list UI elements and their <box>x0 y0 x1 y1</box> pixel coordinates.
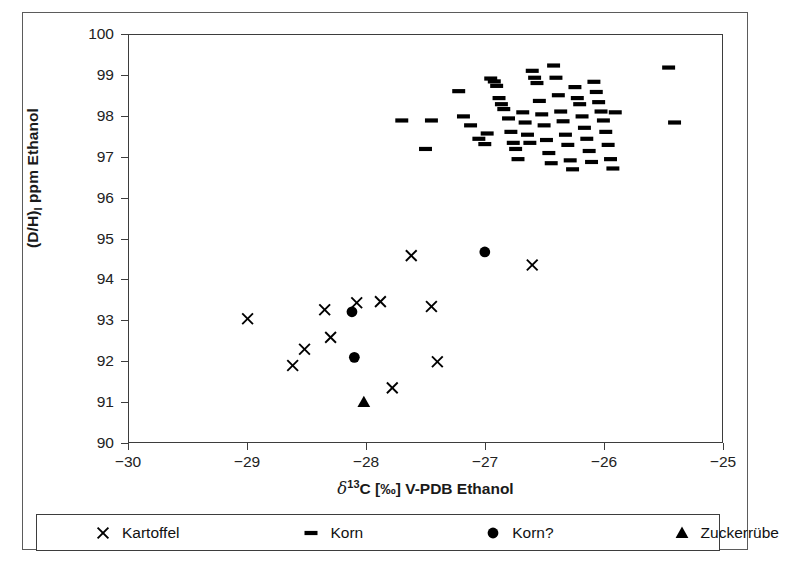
data-point <box>523 141 536 145</box>
legend-label: Zuckerrübe <box>701 524 779 542</box>
data-point <box>516 110 529 114</box>
data-point <box>425 118 438 122</box>
data-point <box>590 90 603 94</box>
triangle-marker-icon <box>672 523 694 543</box>
data-point <box>602 143 615 147</box>
data-point <box>578 126 591 130</box>
data-point <box>554 109 567 113</box>
legend-item-korn[interactable]: Korn <box>301 523 363 543</box>
data-point <box>509 147 522 151</box>
series-zuckerr-be <box>357 396 370 407</box>
data-point <box>542 151 555 155</box>
data-point <box>242 313 253 324</box>
data-point <box>599 130 612 134</box>
x-axis-title-rest: C [‰] V-PDB Ethanol <box>360 480 514 497</box>
data-point <box>585 160 598 164</box>
data-point <box>533 99 546 103</box>
data-point <box>527 260 538 271</box>
x-tick-mark <box>485 443 486 450</box>
figure-root: (D/H)I ppm Ethanol 100999897969594939291… <box>0 0 792 585</box>
data-point <box>540 138 553 142</box>
data-point <box>457 114 470 118</box>
data-point <box>606 166 619 170</box>
data-point <box>576 114 589 118</box>
data-point <box>497 107 510 111</box>
data-point <box>592 100 605 104</box>
scatter-plot-canvas <box>129 35 722 442</box>
data-point <box>587 80 600 84</box>
data-point <box>662 65 675 69</box>
data-point <box>531 81 544 85</box>
data-point <box>478 142 491 146</box>
x-tick-mark <box>247 443 248 450</box>
data-point <box>406 250 417 261</box>
x-tick-label: −29 <box>212 453 282 471</box>
data-point <box>519 120 532 124</box>
data-point <box>502 116 515 120</box>
data-point <box>545 161 558 165</box>
x-axis-title: δ13C [‰] V-PDB Ethanol <box>128 478 723 498</box>
x-tick-label: −26 <box>569 453 639 471</box>
legend-label: Kartoffel <box>122 524 179 542</box>
data-point <box>464 123 477 127</box>
x-axis-title-superscript: 13 <box>347 478 359 490</box>
data-point <box>507 141 520 145</box>
data-point <box>597 118 610 122</box>
data-point <box>535 112 548 116</box>
data-point <box>566 167 579 171</box>
x-tick-mark <box>723 443 724 450</box>
data-point <box>561 143 574 147</box>
data-point <box>387 382 398 393</box>
x-tick-mark <box>366 443 367 450</box>
data-point <box>564 158 577 162</box>
data-point <box>549 76 562 80</box>
data-point <box>568 85 581 89</box>
x-tick-label: −27 <box>450 453 520 471</box>
x-tick-label: −28 <box>331 453 401 471</box>
data-point <box>573 102 586 106</box>
data-point <box>325 332 336 343</box>
data-point <box>488 79 501 83</box>
data-point <box>452 89 465 93</box>
legend: KartoffelKornKorn?Zuckerrübe <box>36 514 720 551</box>
data-point <box>426 301 437 312</box>
data-point <box>668 120 681 124</box>
legend-item-korn[interactable]: Korn? <box>483 523 553 543</box>
legend-label: Korn <box>330 524 363 542</box>
x-tick-label: −25 <box>688 453 758 471</box>
data-point <box>595 109 608 113</box>
legend-item-zuckerr-be[interactable]: Zuckerrübe <box>672 523 779 543</box>
x-tick-mark <box>128 443 129 450</box>
data-point <box>583 149 596 153</box>
data-point <box>347 306 358 317</box>
legend-item-kartoffel[interactable]: Kartoffel <box>93 523 179 543</box>
circle-marker-icon <box>483 523 505 543</box>
x-tick-mark <box>604 443 605 450</box>
series-korn <box>395 63 681 171</box>
series-kartoffel <box>242 250 537 393</box>
data-point <box>557 119 570 123</box>
data-point <box>479 247 490 258</box>
cross-marker-icon <box>93 523 115 543</box>
data-point <box>495 102 508 106</box>
data-point <box>395 118 408 122</box>
x-tick-label: −30 <box>93 453 163 471</box>
data-point <box>547 63 560 67</box>
data-point <box>571 96 584 100</box>
data-point <box>528 76 541 80</box>
data-point <box>580 137 593 141</box>
data-point <box>472 137 485 141</box>
data-point <box>559 133 572 137</box>
data-point <box>490 84 503 88</box>
data-point <box>481 131 494 135</box>
data-point <box>609 110 622 114</box>
data-point <box>493 96 506 100</box>
x-axis-title-delta: δ <box>337 479 347 498</box>
data-point <box>375 296 386 307</box>
data-point <box>419 147 432 151</box>
data-point <box>299 344 310 355</box>
data-point <box>526 69 539 73</box>
data-point <box>552 93 565 97</box>
data-point <box>521 133 534 137</box>
plot-area <box>128 34 723 443</box>
